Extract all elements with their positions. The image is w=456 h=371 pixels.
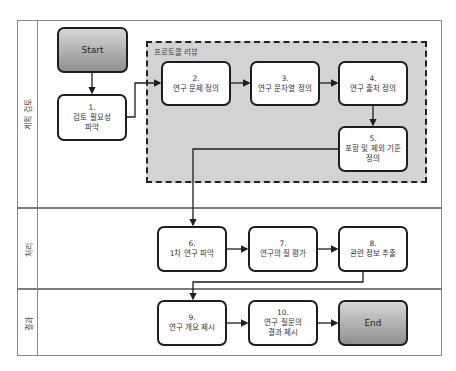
step-10: 10. 연구 질문의 결과 제시 [248, 300, 318, 346]
step-9: 9. 연구 개요 제시 [157, 300, 227, 346]
start-node: Start [57, 27, 128, 73]
step-2: 2. 연구 문제 정의 [161, 61, 231, 106]
end-node: End [338, 300, 408, 346]
step-4: 4. 연구 출처 정의 [338, 61, 408, 106]
step-1: 1. 검토 필요성 파악 [57, 94, 127, 141]
step-7: 7. 연구의 질 평가 [248, 226, 318, 272]
step-3: 3. 연구 문자열 정의 [250, 61, 320, 106]
step-5: 5. 포함 및 제외 기준 정의 [338, 126, 408, 172]
step-8: 8. 관련 정보 추출 [338, 226, 408, 272]
step-6: 6. 1차 연구 파악 [157, 226, 227, 272]
